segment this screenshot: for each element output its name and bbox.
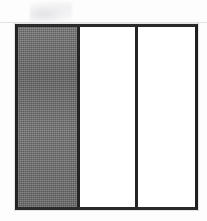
middle-panel-blank <box>80 27 138 207</box>
scan-smudge-artifact <box>30 2 72 22</box>
left-panel-shaded <box>18 27 80 207</box>
scan-line-artifact <box>0 22 207 23</box>
right-panel-blank <box>138 27 195 207</box>
figure-canvas <box>0 0 207 221</box>
rectangle-frame <box>15 24 198 210</box>
